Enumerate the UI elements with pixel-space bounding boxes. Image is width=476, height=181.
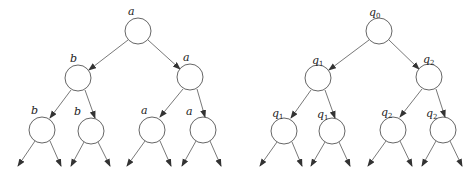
node-label: q1 — [312, 54, 324, 68]
left-tree: a b a b b a a — [18, 5, 221, 166]
edge — [329, 40, 369, 70]
edge — [389, 40, 419, 69]
node-label: a — [186, 105, 193, 118]
edge — [339, 142, 350, 166]
edge — [160, 141, 171, 166]
edge — [400, 141, 412, 166]
tree-node-leaf — [139, 117, 165, 143]
tree-node — [65, 65, 91, 91]
edge — [148, 40, 180, 69]
tree-node — [177, 64, 203, 90]
node-label: a — [183, 51, 190, 64]
tree-node — [305, 65, 331, 91]
edge — [50, 141, 61, 166]
tree-diagrams: a b a b b a a q0 q1 q2 q1 — [0, 0, 476, 181]
node-label: b — [31, 104, 38, 117]
edge — [160, 89, 183, 117]
edge — [400, 89, 422, 117]
edge — [311, 142, 325, 166]
node-label: q0 — [369, 6, 381, 20]
node-label: q2 — [426, 107, 438, 121]
tree-node-leaf — [380, 117, 406, 143]
node-label: a — [128, 5, 135, 18]
tree-node — [416, 64, 442, 90]
edge — [89, 40, 128, 70]
edge — [50, 90, 71, 118]
edge — [450, 141, 462, 166]
edge — [210, 141, 221, 166]
edge — [291, 90, 311, 118]
edge — [292, 142, 302, 166]
node-label: q1 — [272, 107, 284, 121]
edge — [18, 141, 35, 166]
node-label: q2 — [423, 53, 435, 67]
edge — [260, 142, 277, 166]
tree-node-leaf — [271, 118, 297, 144]
edge — [98, 142, 110, 166]
tree-node-root — [125, 18, 151, 44]
edge — [368, 141, 386, 166]
tree-node-leaf — [319, 118, 345, 144]
edge — [182, 141, 196, 166]
edge — [127, 141, 145, 166]
node-label: a — [141, 104, 148, 117]
node-label: b — [70, 52, 77, 65]
node-label: b — [74, 105, 81, 118]
tree-node-leaf — [29, 117, 55, 143]
edge — [197, 89, 205, 117]
tree-node-root — [366, 18, 392, 44]
edge — [422, 141, 436, 166]
node-label: q1 — [317, 108, 329, 122]
right-tree: q0 q1 q2 q1 q1 q2 q2 — [260, 6, 462, 166]
edge — [71, 142, 84, 166]
node-label: q2 — [381, 106, 393, 120]
tree-node-leaf — [190, 117, 216, 143]
edge — [85, 90, 95, 118]
tree-node-leaf — [78, 118, 104, 144]
